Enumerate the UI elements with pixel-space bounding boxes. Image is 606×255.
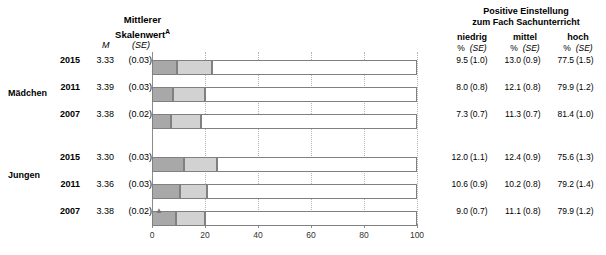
cell-se: (0.7) [470,106,498,122]
cell-mittel: 11.1(0.8) [499,203,551,219]
cell-se: (0.8) [523,176,551,192]
left-header-line2: Skalenwert [115,29,165,40]
cell-percent: 79.9 [552,79,574,95]
cell-se: (1.2) [576,79,604,95]
cell-percent: 12.1 [499,79,521,95]
cell-se: (0.9) [470,176,498,192]
row-year: 2011 [52,79,80,95]
cell-se: (0.9) [523,149,551,165]
cell-percent: 11.3 [499,106,521,122]
cell-niedrig: 12.0(1.1) [446,149,498,165]
table-row: 20113.36(0.03)10.6(0.9)10.2(0.8)79.2(1.4… [0,176,606,192]
row-mean: 3.30 [88,149,114,165]
cell-mittel: 13.0(0.9) [499,52,551,68]
row-year: 2007 [52,106,80,122]
cell-se: (1.0) [470,52,498,68]
cell-percent: 79.2 [552,176,574,192]
cell-niedrig: 9.0(0.7) [446,203,498,219]
cell-percent: 8.0 [446,79,468,95]
left-header-line1: Mittlerer [124,14,161,25]
plot-area: 020406080100 [152,52,417,224]
tick-label-0: 0 [137,230,167,240]
cell-se: (1.0) [576,106,604,122]
row-year: 2007 [52,203,80,219]
cell-hoch: 79.2(1.4) [552,176,604,192]
left-header-superscript: A [165,28,170,35]
right-header-line2: zum Fach Sachunterricht [472,17,580,27]
gridline-100 [417,52,418,224]
cell-percent: 12.0 [446,149,468,165]
cell-se: (1.4) [576,176,604,192]
tick-label-20: 20 [190,230,220,240]
right-header-title: Positive Einstellung zum Fach Sachunterr… [446,6,606,28]
chart-figure: Mittlerer SkalenwertA M (SE) Positive Ei… [0,0,606,255]
left-header-title: Mittlerer SkalenwertA [80,14,205,40]
row-mean-se: (0.03) [120,79,152,95]
table-row: 20153.30(0.03)12.0(1.1)12.4(0.9)75.6(1.3… [0,149,606,165]
cell-mittel: 11.3(0.7) [499,106,551,122]
row-mean: 3.38 [88,106,114,122]
cell-se: (0.8) [523,79,551,95]
column-header-mittel-label: mittel [499,32,551,43]
cell-percent: 81.4 [552,106,574,122]
table-row: 20113.39(0.03)8.0(0.8)12.1(0.8)79.9(1.2) [0,79,606,95]
right-header-line1: Positive Einstellung [483,6,569,16]
cell-se: (1.2) [576,203,604,219]
cell-hoch: 81.4(1.0) [552,106,604,122]
tick-100 [417,224,418,228]
tick-label-80: 80 [349,230,379,240]
column-header-hoch-label: hoch [552,32,604,43]
table-row: 20153.33(0.03)9.5(1.0)13.0(0.9)77.5(1.5) [0,52,606,68]
row-year: 2015 [52,149,80,165]
row-mean-se: (0.02) [120,203,152,219]
column-header-mittel: mittel % (SE) [499,32,551,54]
cell-percent: 77.5 [552,52,574,68]
row-mean: 3.33 [88,52,114,68]
cell-se: (1.5) [576,52,604,68]
cell-se: (0.7) [470,203,498,219]
cell-percent: 9.0 [446,203,468,219]
cell-se: (0.9) [523,52,551,68]
cell-percent: 75.6 [552,149,574,165]
cell-mittel: 12.4(0.9) [499,149,551,165]
column-header-mean: M [102,40,110,51]
cell-niedrig: 7.3(0.7) [446,106,498,122]
row-mean: 3.38 [88,203,114,219]
cell-percent: 11.1 [499,203,521,219]
cell-se: (0.7) [523,106,551,122]
column-header-niedrig-label: niedrig [446,32,498,43]
row-mean-se: (0.03) [120,149,152,165]
row-year: 2015 [52,52,80,68]
cell-niedrig: 10.6(0.9) [446,176,498,192]
cell-hoch: 79.9(1.2) [552,79,604,95]
row-mean: 3.36 [88,176,114,192]
cell-percent: 10.6 [446,176,468,192]
column-header-hoch: hoch % (SE) [552,32,604,54]
cell-percent: 13.0 [499,52,521,68]
significance-triangle-icon: ▲ [155,203,165,219]
table-row: 20073.38(0.02)7.3(0.7)11.3(0.7)81.4(1.0) [0,106,606,122]
table-row: 20073.38(0.02)▲9.0(0.7)11.1(0.8)79.9(1.2… [0,203,606,219]
cell-percent: 7.3 [446,106,468,122]
cell-hoch: 77.5(1.5) [552,52,604,68]
cell-niedrig: 8.0(0.8) [446,79,498,95]
row-mean: 3.39 [88,79,114,95]
row-year: 2011 [52,176,80,192]
cell-hoch: 79.9(1.2) [552,203,604,219]
cell-se: (0.8) [470,79,498,95]
cell-percent: 9.5 [446,52,468,68]
cell-mittel: 12.1(0.8) [499,79,551,95]
cell-percent: 79.9 [552,203,574,219]
column-header-niedrig: niedrig % (SE) [446,32,498,54]
tick-label-40: 40 [243,230,273,240]
cell-se: (1.1) [470,149,498,165]
cell-niedrig: 9.5(1.0) [446,52,498,68]
row-mean-se: (0.03) [120,176,152,192]
cell-mittel: 10.2(0.8) [499,176,551,192]
cell-se: (1.3) [576,149,604,165]
cell-hoch: 75.6(1.3) [552,149,604,165]
row-mean-se: (0.03) [120,52,152,68]
tick-label-60: 60 [296,230,326,240]
row-mean-se: (0.02) [120,106,152,122]
cell-percent: 12.4 [499,149,521,165]
